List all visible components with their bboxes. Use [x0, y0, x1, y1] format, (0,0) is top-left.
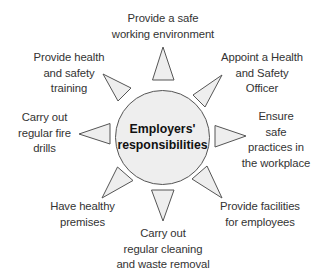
responsibility-line: Provide a safe: [104, 11, 222, 27]
responsibility-line: premises: [40, 215, 125, 231]
ray-triangle-top: [153, 47, 175, 80]
responsibility-fire-drills: Carry outregular firedrills: [7, 110, 82, 157]
responsibility-line: regular fire: [7, 126, 82, 142]
ray-triangle-bottom-right: [192, 166, 222, 198]
responsibility-line: and safety: [24, 66, 114, 82]
responsibility-safe-working-environment: Provide a safeworking environment: [104, 11, 222, 42]
responsibility-line: working environment: [104, 27, 222, 43]
responsibility-training: Provide healthand safetytraining: [24, 50, 114, 97]
center-title: Employers' responsibilities: [112, 121, 213, 153]
center-title-line-1: Employers': [112, 121, 213, 137]
responsibility-line: Appoint a Health: [212, 50, 312, 66]
responsibility-appoint-officer: Appoint a Healthand SafetyOfficer: [212, 50, 312, 97]
responsibility-cleaning: Carry outregular cleaningand waste remov…: [105, 226, 221, 273]
responsibility-line: and waste removal: [105, 257, 221, 273]
responsibility-line: drills: [7, 141, 82, 157]
responsibility-line: Have healthy: [40, 199, 125, 215]
responsibility-line: practices in: [232, 140, 320, 156]
responsibility-safe-practices: Ensuresafepractices inthe workplace: [232, 109, 320, 171]
center-title-line-2: responsibilities: [112, 137, 213, 153]
responsibility-line: safe: [232, 125, 320, 141]
responsibility-line: Ensure: [232, 109, 320, 125]
responsibility-line: and Safety: [212, 66, 312, 82]
responsibility-line: Provide health: [24, 50, 114, 66]
ray-triangle-bottom-left: [102, 167, 133, 198]
responsibility-line: the workplace: [232, 156, 320, 172]
responsibility-healthy-premises: Have healthypremises: [40, 199, 125, 230]
ray-triangle-left: [79, 124, 110, 145]
responsibility-line: Carry out: [7, 110, 82, 126]
responsibility-line: Officer: [212, 81, 312, 97]
ray-triangle-bottom: [152, 190, 175, 221]
responsibility-line: training: [24, 81, 114, 97]
responsibility-line: regular cleaning: [105, 242, 221, 258]
responsibility-facilities: Provide facilitiesfor employees: [207, 199, 313, 230]
responsibility-line: Provide facilities: [207, 199, 313, 215]
responsibility-line: for employees: [207, 215, 313, 231]
